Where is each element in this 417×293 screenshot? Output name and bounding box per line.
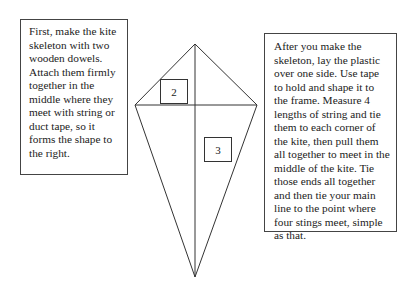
label-box-2: 2 — [161, 80, 188, 104]
instruction-text-step-2: After you make the skeleton, lay the pla… — [274, 40, 390, 241]
label-3: 3 — [215, 144, 221, 156]
label-2: 2 — [171, 86, 177, 98]
label-box-3: 3 — [205, 138, 232, 162]
instruction-box-step-2: After you make the skeleton, lay the pla… — [264, 33, 397, 232]
kite-outline — [135, 44, 257, 277]
